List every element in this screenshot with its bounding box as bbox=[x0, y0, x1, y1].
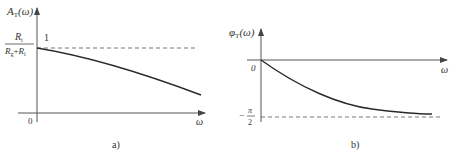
b-origin-label: 0 bbox=[251, 63, 256, 73]
a-frac-den-i-sub: i bbox=[24, 51, 26, 57]
b-asym-minus: − bbox=[239, 110, 244, 120]
figure-b: φT(ω) 0 ω − π 2 b) bbox=[229, 26, 448, 151]
diagram-canvas: AT(ω) Ri Rg+Ri 1 0 ω a) φT(ω) 0 bbox=[0, 0, 452, 157]
a-amplitude-curve bbox=[37, 48, 201, 95]
b-asym-num: π bbox=[248, 106, 253, 115]
b-x-label: ω bbox=[441, 64, 448, 75]
a-frac-num-main: R bbox=[14, 31, 21, 42]
a-y-label-arg: (ω) bbox=[18, 5, 33, 18]
svg-text:φT(ω): φT(ω) bbox=[229, 26, 255, 40]
a-origin-label: 0 bbox=[28, 116, 33, 126]
figure-a: AT(ω) Ri Rg+Ri 1 0 ω a) bbox=[4, 5, 205, 151]
b-asym-den: 2 bbox=[248, 118, 252, 127]
svg-text:Rg+Ri: Rg+Ri bbox=[4, 46, 26, 57]
svg-text:AT(ω): AT(ω) bbox=[6, 5, 33, 19]
b-y-label-arg: (ω) bbox=[239, 26, 254, 39]
b-phase-curve bbox=[261, 60, 432, 114]
a-level-label: 1 bbox=[44, 32, 49, 43]
svg-text:Ri: Ri bbox=[14, 31, 23, 43]
a-caption: a) bbox=[112, 139, 120, 151]
b-caption: b) bbox=[351, 139, 359, 151]
a-x-label: ω bbox=[196, 116, 203, 127]
a-frac-num-sub: i bbox=[21, 37, 23, 43]
